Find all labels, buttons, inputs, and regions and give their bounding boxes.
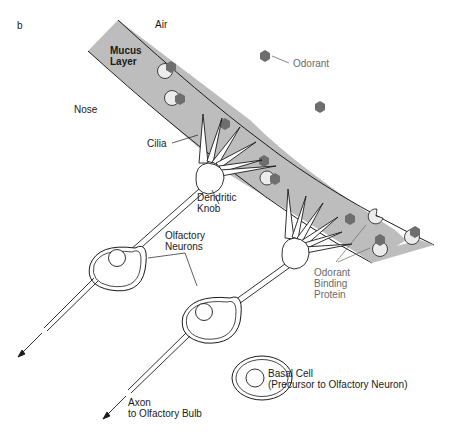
- odorant-label: Odorant: [293, 58, 329, 69]
- dendritic-knob-label: Dendritic Knob: [197, 192, 236, 214]
- mucus-air-boundary: [118, 20, 434, 245]
- neuron-1-axon: [18, 278, 98, 357]
- basal-cell-label: Basal Cell (Precursor to Olfactory Neuro…: [268, 368, 408, 390]
- neuron-2-soma: [182, 297, 241, 343]
- binding-protein-empty: [368, 209, 383, 224]
- axon-label: Axon to Olfactory Bulb: [128, 397, 202, 419]
- odorant-leader: [272, 56, 289, 63]
- air-label: Air: [155, 19, 167, 30]
- binding-protein-with-odorant: [405, 226, 421, 245]
- odorant-molecule: [315, 101, 325, 113]
- mucus-layer-label: Mucus Layer: [110, 45, 142, 67]
- nose-label: Nose: [74, 104, 97, 115]
- cilia-label: Cilia: [147, 138, 166, 149]
- neuron-1-soma: [89, 246, 146, 291]
- odorant-molecule: [260, 50, 270, 62]
- olfactory-neurons-label: Olfactory Neurons: [165, 230, 205, 252]
- panel-letter: b: [17, 20, 23, 31]
- odorant-binding-protein-label: Odorant Binding Protein: [314, 267, 350, 300]
